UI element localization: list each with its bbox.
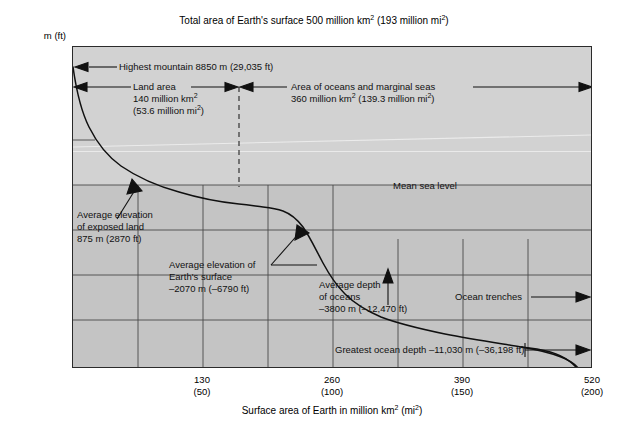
hypsographic-curve-figure: Total area of Earth's surface 500 millio… bbox=[0, 0, 629, 425]
annotation-oceans-line2: 360 million km2 (139.3 million mi2) bbox=[291, 93, 435, 105]
annotation-land-area-line2: 140 million km2 bbox=[133, 93, 204, 105]
annotation-mean-sea-level: Mean sea level bbox=[393, 180, 457, 192]
annotation-avg-depth-line1: Average depth bbox=[319, 279, 407, 291]
plot-area: Highest mountain 8850 m (29,035 ft) Land… bbox=[72, 46, 592, 368]
annotation-avg-surface-elevation: Average elevation of Earth's surface –20… bbox=[169, 259, 255, 296]
x-tick-390: 390(150) bbox=[451, 374, 473, 397]
annotation-avg-depth-line2: of oceans bbox=[319, 291, 407, 303]
scan-band-highlight bbox=[73, 151, 592, 152]
x-axis-title-text: Surface area of Earth in million km2 (mi… bbox=[242, 405, 423, 416]
x-axis-title: Surface area of Earth in million km2 (mi… bbox=[242, 405, 423, 416]
annotation-avg-surface-line3: –2070 m (–6790 ft) bbox=[169, 283, 255, 295]
annotation-avg-land-line3: 875 m (2870 ft) bbox=[77, 233, 153, 245]
figure-title-text: Total area of Earth's surface 500 millio… bbox=[179, 15, 448, 26]
annotation-avg-surface-line2: Earth's surface bbox=[169, 271, 255, 283]
figure-title: Total area of Earth's surface 500 millio… bbox=[179, 15, 448, 26]
x-tick-520: 520(200) bbox=[581, 374, 603, 397]
x-tick-260: 260(100) bbox=[321, 374, 343, 397]
annotation-highest-mountain: Highest mountain 8850 m (29,035 ft) bbox=[119, 61, 273, 73]
annotation-land-area-line3: (53.6 million mi2) bbox=[133, 105, 204, 117]
annotation-avg-land-line1: Average elevation bbox=[77, 209, 153, 221]
annotation-land-area: Land area 140 million km2 (53.6 million … bbox=[133, 81, 204, 118]
y-axis-tick-labels: 9150 (30,000) 6100 (20,000) 3050 (10,000… bbox=[0, 0, 68, 425]
annotation-oceans-area: Area of oceans and marginal seas 360 mil… bbox=[291, 81, 435, 105]
annotation-avg-ocean-depth: Average depth of oceans –3800 m (–12,470… bbox=[319, 279, 407, 316]
annotation-oceans-line1: Area of oceans and marginal seas bbox=[291, 81, 435, 93]
x-tick-130: 130(50) bbox=[194, 374, 211, 397]
annotation-greatest-depth: Greatest ocean depth –11,030 m (–36,198 … bbox=[335, 344, 524, 356]
annotation-avg-depth-line3: –3800 m (–12,470 ft) bbox=[319, 303, 407, 315]
annotation-avg-surface-line1: Average elevation of bbox=[169, 259, 255, 271]
annotation-avg-land-elevation: Average elevation of exposed land 875 m … bbox=[77, 209, 153, 246]
annotation-avg-land-line2: of exposed land bbox=[77, 221, 153, 233]
annotation-ocean-trenches: Ocean trenches bbox=[455, 291, 522, 303]
